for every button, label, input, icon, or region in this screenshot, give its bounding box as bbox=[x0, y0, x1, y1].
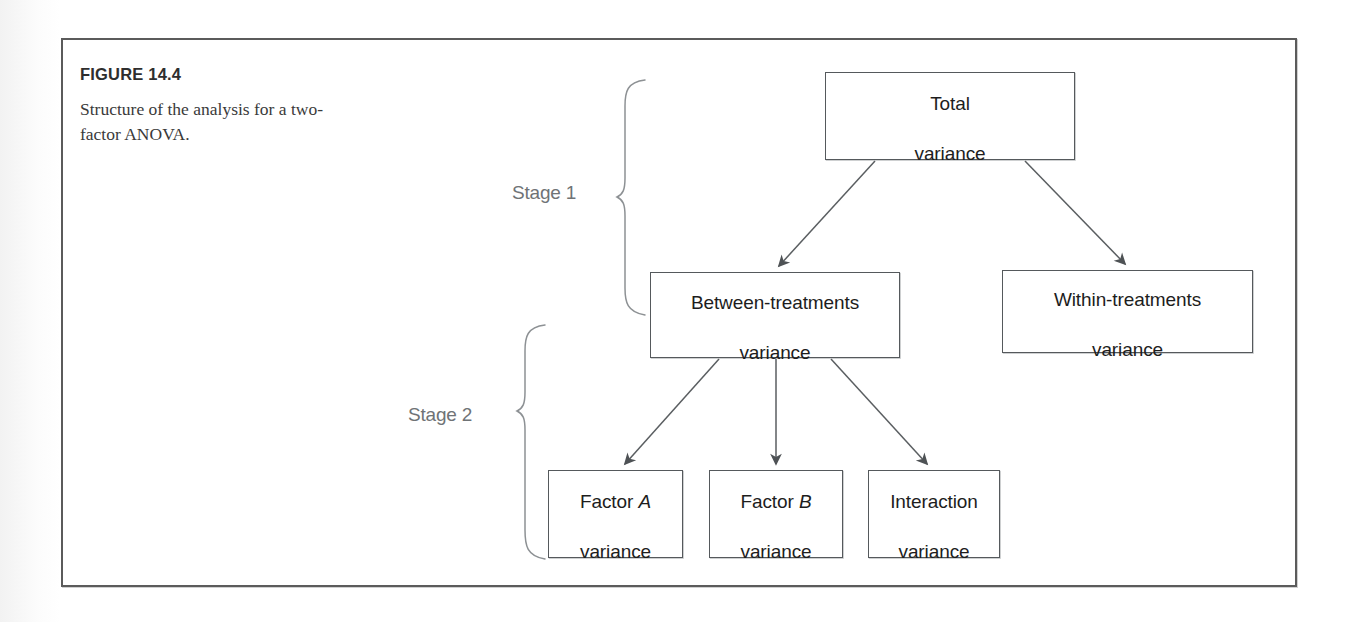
edge-total-to-within bbox=[1025, 161, 1125, 264]
node-line-1: Interaction bbox=[890, 491, 978, 512]
node-line-2: variance bbox=[914, 143, 985, 164]
node-factor-b-variance-label: Factor B variance bbox=[740, 464, 811, 564]
node-line-1-italic: A bbox=[638, 491, 651, 512]
node-line-2: variance bbox=[740, 541, 811, 562]
node-total-variance-label: Total variance bbox=[914, 66, 985, 166]
node-within-treatments-variance-label: Within-treatments variance bbox=[1054, 262, 1201, 362]
node-line-2: variance bbox=[1092, 339, 1163, 360]
stage-2-label: Stage 2 bbox=[408, 404, 472, 426]
node-total-variance: Total variance bbox=[825, 72, 1075, 160]
node-line-2: variance bbox=[739, 342, 810, 363]
node-interaction-variance: Interaction variance bbox=[868, 470, 1000, 558]
stage-1-label: Stage 1 bbox=[512, 182, 576, 204]
node-line-1: Within-treatments bbox=[1054, 289, 1201, 310]
stage-2-brace bbox=[517, 325, 545, 559]
edge-between-to-factor-a bbox=[625, 359, 719, 464]
node-line-1: Between-treatments bbox=[691, 292, 859, 313]
edge-between-to-interaction bbox=[831, 359, 927, 464]
edge-total-to-between bbox=[779, 161, 875, 266]
node-between-treatments-variance-label: Between-treatments variance bbox=[691, 265, 859, 365]
node-factor-a-variance-label: Factor A variance bbox=[580, 464, 651, 564]
node-line-2: variance bbox=[898, 541, 969, 562]
node-within-treatments-variance: Within-treatments variance bbox=[1002, 270, 1253, 353]
stage-1-brace bbox=[617, 80, 645, 315]
node-line-1: Factor bbox=[740, 491, 798, 512]
node-line-1: Total bbox=[930, 93, 970, 114]
node-factor-b-variance: Factor B variance bbox=[709, 470, 843, 558]
node-factor-a-variance: Factor A variance bbox=[548, 470, 683, 558]
node-line-2: variance bbox=[580, 541, 651, 562]
node-interaction-variance-label: Interaction variance bbox=[890, 464, 978, 564]
node-between-treatments-variance: Between-treatments variance bbox=[650, 272, 900, 358]
node-line-1: Factor bbox=[580, 491, 638, 512]
node-line-1-italic: B bbox=[799, 491, 812, 512]
